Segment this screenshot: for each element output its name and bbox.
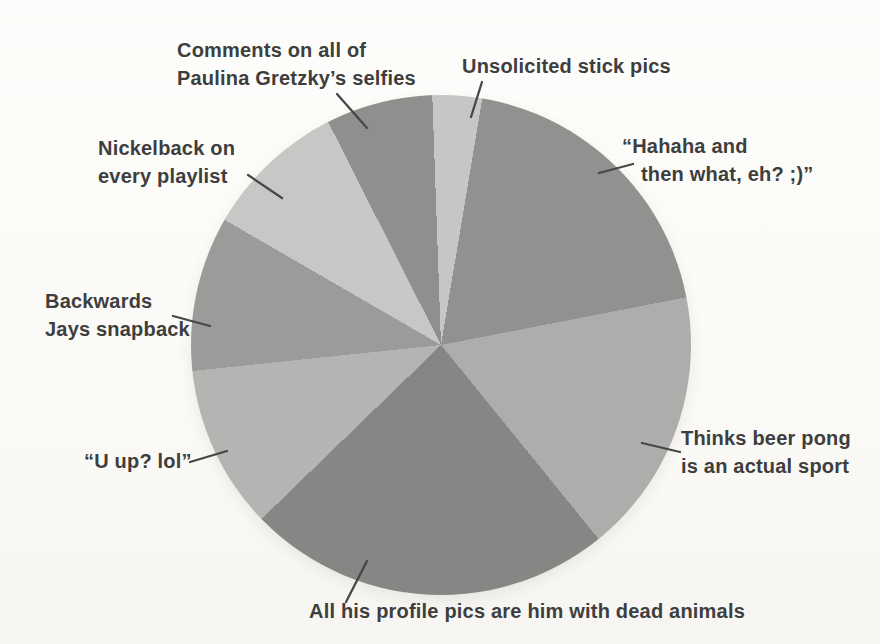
label-beer-pong: Thinks beer pong is an actual sport xyxy=(681,424,851,480)
label-dead-animals: All his profile pics are him with dead a… xyxy=(309,597,745,625)
label-comments-selfies: Comments on all of Paulina Gretzky’s sel… xyxy=(177,36,416,92)
pie-chart xyxy=(191,95,691,595)
label-nickelback: Nickelback on every playlist xyxy=(98,134,235,190)
label-u-up: “U up? lol” xyxy=(84,447,192,475)
book-page: Comments on all of Paulina Gretzky’s sel… xyxy=(0,0,880,644)
label-backwards-snapback: Backwards Jays snapback xyxy=(45,287,190,343)
label-hahaha: “Hahaha and then what, eh? ;)” xyxy=(622,132,813,188)
label-unsolicited-stick-pics: Unsolicited stick pics xyxy=(462,52,671,80)
